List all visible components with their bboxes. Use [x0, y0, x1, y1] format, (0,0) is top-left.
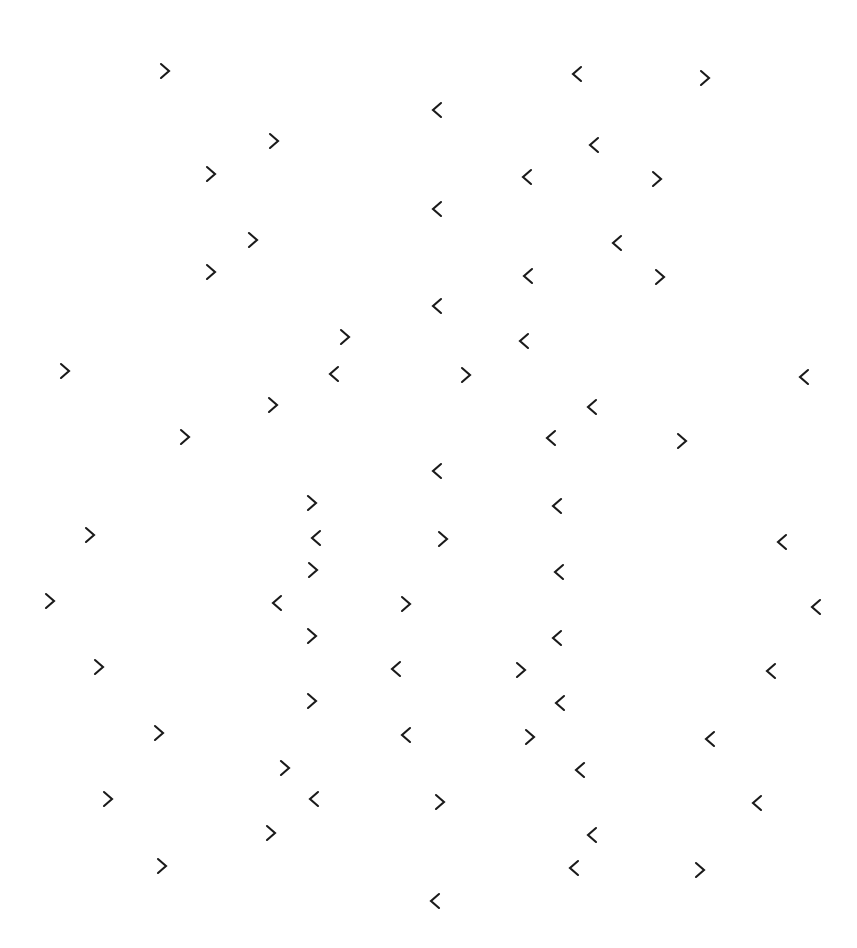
chevron-right-icon — [260, 822, 282, 844]
chevron-left-icon — [548, 561, 570, 583]
chevron-right-icon — [148, 722, 170, 744]
chevron-left-icon — [266, 592, 288, 614]
chevron-left-icon — [546, 495, 568, 517]
chevron-left-icon — [323, 363, 345, 385]
chevron-left-icon — [424, 890, 446, 912]
chevron-left-icon — [513, 330, 535, 352]
chevron-left-icon — [426, 99, 448, 121]
chevron-right-icon — [263, 130, 285, 152]
chevron-right-icon — [646, 168, 668, 190]
chevron-right-icon — [671, 430, 693, 452]
chevron-left-icon — [540, 427, 562, 449]
chevron-left-icon — [581, 396, 603, 418]
chevron-left-icon — [793, 366, 815, 388]
chevron-left-icon — [566, 63, 588, 85]
chevron-left-icon — [549, 692, 571, 714]
chevron-left-icon — [303, 788, 325, 810]
chevron-right-icon — [301, 625, 323, 647]
chevron-left-icon — [516, 166, 538, 188]
chevron-right-icon — [395, 593, 417, 615]
chevron-right-icon — [39, 590, 61, 612]
chevron-right-icon — [649, 266, 671, 288]
chevron-right-icon — [519, 726, 541, 748]
chevron-left-icon — [563, 857, 585, 879]
chevron-left-icon — [606, 232, 628, 254]
visual-search-display — [0, 0, 857, 948]
chevron-right-icon — [200, 261, 222, 283]
chevron-left-icon — [746, 792, 768, 814]
chevron-left-icon — [517, 265, 539, 287]
chevron-right-icon — [510, 659, 532, 681]
chevron-left-icon — [426, 460, 448, 482]
chevron-right-icon — [262, 394, 284, 416]
chevron-right-icon — [432, 528, 454, 550]
chevron-right-icon — [301, 690, 323, 712]
chevron-left-icon — [305, 527, 327, 549]
chevron-right-icon — [274, 757, 296, 779]
chevron-right-icon — [174, 426, 196, 448]
chevron-right-icon — [455, 364, 477, 386]
chevron-right-icon — [694, 67, 716, 89]
chevron-right-icon — [79, 524, 101, 546]
chevron-left-icon — [569, 759, 591, 781]
chevron-right-icon — [302, 559, 324, 581]
chevron-right-icon — [151, 855, 173, 877]
chevron-right-icon — [429, 791, 451, 813]
chevron-left-icon — [581, 824, 603, 846]
chevron-left-icon — [771, 531, 793, 553]
chevron-left-icon — [426, 295, 448, 317]
chevron-left-icon — [546, 627, 568, 649]
chevron-left-icon — [699, 728, 721, 750]
chevron-left-icon — [583, 134, 605, 156]
chevron-right-icon — [301, 492, 323, 514]
chevron-right-icon — [242, 229, 264, 251]
chevron-right-icon — [54, 360, 76, 382]
chevron-right-icon — [97, 788, 119, 810]
chevron-left-icon — [760, 660, 782, 682]
chevron-right-icon — [334, 326, 356, 348]
chevron-right-icon — [200, 163, 222, 185]
chevron-left-icon — [395, 724, 417, 746]
chevron-left-icon — [385, 658, 407, 680]
chevron-right-icon — [689, 859, 711, 881]
chevron-right-icon — [154, 60, 176, 82]
chevron-left-icon — [426, 198, 448, 220]
chevron-left-icon — [805, 596, 827, 618]
chevron-right-icon — [88, 656, 110, 678]
